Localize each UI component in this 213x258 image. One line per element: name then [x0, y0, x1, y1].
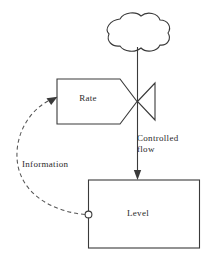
diagram-canvas	[0, 0, 213, 258]
valve-icon	[138, 83, 156, 120]
rate-label: Rate	[68, 93, 108, 104]
controlled-flow-label: Controlledflow	[137, 133, 199, 155]
cloud-icon	[107, 13, 169, 51]
level-label: Level	[118, 208, 158, 219]
circle-connector-icon	[85, 211, 92, 218]
controlled-flow-label-line-2: flow	[137, 144, 155, 154]
controlled-flow-label-line-1: Controlled	[137, 133, 179, 143]
stock-and-flow-diagram: Rate Level Controlledflow Information	[0, 0, 213, 258]
information-label: Information	[22, 159, 86, 170]
